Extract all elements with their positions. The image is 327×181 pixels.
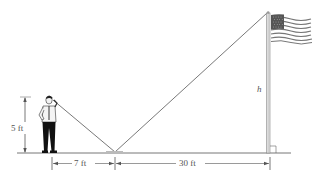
- label-person-to-mirror: 7 ft: [74, 158, 86, 168]
- label-person-height: 5 ft: [11, 123, 23, 133]
- flag-canton: [271, 14, 284, 29]
- right-angle-marker: [270, 146, 276, 153]
- mirror: [106, 151, 123, 153]
- flagpole: [267, 11, 271, 153]
- flag: [271, 14, 312, 44]
- label-mirror-to-pole: 30 ft: [179, 158, 196, 168]
- incident-ray: [53, 100, 115, 152]
- label-pole-height: h: [257, 84, 262, 94]
- diagram-canvas: [0, 0, 327, 181]
- person-figure: [39, 96, 57, 153]
- reflected-ray: [115, 13, 267, 152]
